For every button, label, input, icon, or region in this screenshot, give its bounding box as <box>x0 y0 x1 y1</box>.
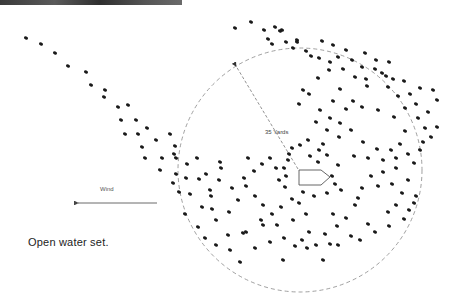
decoy-dot <box>369 174 374 178</box>
decoy-dot <box>353 75 358 79</box>
decoy-dot <box>171 181 176 185</box>
decoy-dot <box>392 115 397 119</box>
decoy-dot <box>287 152 292 156</box>
decoy-dot <box>396 94 401 98</box>
decoy-dot <box>314 120 319 124</box>
decoy-dot <box>102 95 107 99</box>
decoy-dot <box>233 26 238 30</box>
boat-icon <box>299 170 330 185</box>
decoy-dot <box>84 70 89 74</box>
decoy-dot <box>218 160 223 164</box>
decoy-dot <box>143 156 148 160</box>
decoy-dot <box>321 258 326 262</box>
decoy-dot <box>203 236 208 240</box>
decoy-dot <box>336 55 341 59</box>
decoy-dot <box>418 148 423 152</box>
decoy-dot <box>416 116 421 120</box>
decoy-dot <box>270 42 275 46</box>
decoy-dot <box>236 198 241 202</box>
decoy-dot <box>328 242 333 246</box>
decoy-dot <box>140 145 145 149</box>
decoy-dot <box>336 163 341 167</box>
decoy-dot <box>317 148 322 152</box>
decoy-dot <box>386 210 391 214</box>
decoy-dot <box>389 148 394 152</box>
decoy-dot <box>394 166 399 170</box>
decoy-dot <box>305 246 310 250</box>
decoy-dot <box>244 184 249 188</box>
diagram-canvas <box>0 0 456 308</box>
decoy-dot <box>228 248 233 252</box>
decoy-dot <box>360 186 365 190</box>
decoy-dot <box>297 201 302 205</box>
decoy-dot <box>318 108 323 112</box>
decoy-dot <box>307 230 312 234</box>
decoy-dot <box>154 138 159 142</box>
decoy-dot <box>177 190 182 194</box>
decoy-dot <box>253 246 258 250</box>
decoy-dot <box>226 233 231 237</box>
decoy-dot <box>197 177 202 181</box>
decoy-dot <box>290 197 295 201</box>
decoy-dot <box>335 224 340 228</box>
decoy-dot <box>414 102 419 106</box>
decoy-dot <box>185 162 190 166</box>
decoy-dot <box>374 58 379 62</box>
decoy-dot <box>353 203 358 207</box>
decoy-dot <box>134 118 139 122</box>
decoy-dot <box>328 60 333 64</box>
decoy-dot <box>281 258 286 262</box>
decoy-dot <box>331 99 336 103</box>
decoy-dot <box>336 243 341 247</box>
decoy-dot <box>214 243 219 247</box>
decoy-dot <box>387 60 392 64</box>
decoy-dot <box>253 194 258 198</box>
decoy-dot <box>66 64 71 68</box>
decoy-dot <box>344 216 349 220</box>
decoy-dot <box>356 196 361 200</box>
decoy-dot <box>376 108 381 112</box>
decoy-dot <box>412 201 417 205</box>
decoy-dot <box>408 92 413 96</box>
decoy-dot <box>384 74 389 78</box>
decoy-dot <box>394 156 399 160</box>
decoy-dot <box>242 176 247 180</box>
decoy-dot <box>360 65 365 69</box>
decoy-dot <box>380 71 385 75</box>
decoy-dot <box>394 203 399 207</box>
decoy-dot <box>261 223 266 227</box>
decoy-dot <box>172 152 177 156</box>
decoy-dot <box>126 103 131 107</box>
decoy-dot <box>325 153 330 157</box>
decoy-dot <box>145 126 150 130</box>
decoy-dot <box>188 192 193 196</box>
decoy-dot <box>426 110 431 114</box>
decoy-dot <box>301 190 306 194</box>
decoy-dot <box>435 98 440 102</box>
decoy-dot <box>160 156 165 160</box>
decoy-dot <box>331 212 336 216</box>
decoy-dot <box>136 132 141 136</box>
decoy-dot <box>406 178 411 182</box>
decoy-dot <box>325 128 330 132</box>
decoy-dot <box>293 244 298 248</box>
decoy-dot <box>282 166 287 170</box>
decoy-dot <box>381 170 386 174</box>
decoy-dot <box>366 222 371 226</box>
decoy-dot <box>358 238 363 242</box>
decoy-dot <box>266 37 271 41</box>
decoy-dot <box>24 36 29 40</box>
decoy-dot <box>351 99 356 103</box>
decoy-dot <box>304 49 309 53</box>
open-water-set-diagram: 35 Yards Wind Open water set. <box>0 0 456 308</box>
decoy-dot <box>418 86 423 90</box>
decoy-dot <box>174 156 179 160</box>
decoy-dot <box>252 169 257 173</box>
decoy-dot <box>375 147 380 151</box>
decoy-dot <box>331 43 336 47</box>
decoy-dot <box>402 217 407 221</box>
decoy-dot <box>230 186 235 190</box>
decoy-dot <box>365 84 370 88</box>
decoy-dot <box>219 166 224 170</box>
decoy-dot <box>406 152 411 156</box>
